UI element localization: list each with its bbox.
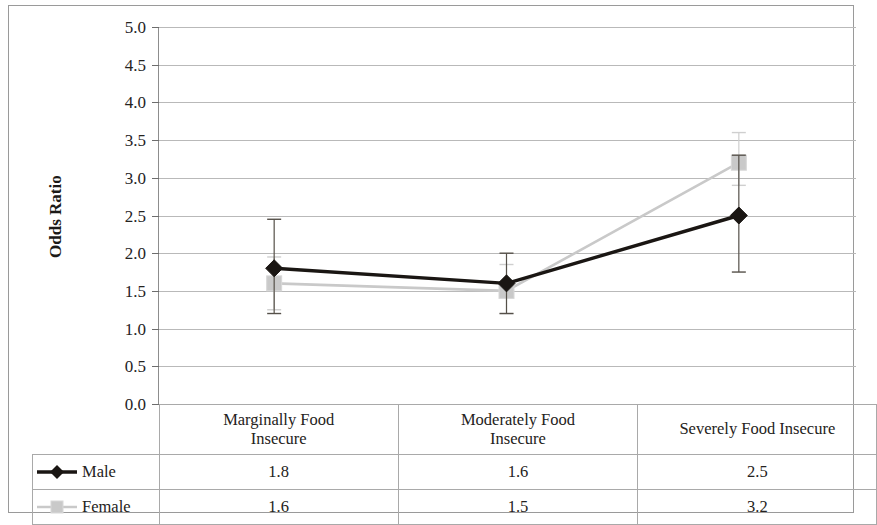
table-row: Female1.61.53.2 xyxy=(33,490,877,525)
legend-entry: Female xyxy=(35,497,155,517)
column-header-line2: Insecure xyxy=(163,430,395,448)
legend-entry: Male xyxy=(35,462,155,482)
column-header-line2: Insecure xyxy=(402,430,634,448)
table-cell-value: 2.5 xyxy=(638,455,877,490)
table-cell-value: 1.8 xyxy=(159,455,398,490)
table-row: Male1.81.62.5 xyxy=(33,455,877,490)
column-header-line1: Marginally Food xyxy=(163,411,395,429)
table-column-header: Moderately FoodInsecure xyxy=(398,405,637,455)
table-header-row: Marginally FoodInsecureModerately FoodIn… xyxy=(33,405,877,455)
table-column-header: Severely Food Insecure xyxy=(638,405,877,455)
data-table: Marginally FoodInsecureModerately FoodIn… xyxy=(32,404,877,525)
legend-marker-square xyxy=(51,501,63,513)
data-point-marker-diamond xyxy=(266,260,283,277)
legend-marker-diamond xyxy=(50,465,64,479)
table-column-header: Marginally FoodInsecure xyxy=(159,405,398,455)
table-cell-value: 1.5 xyxy=(398,490,637,525)
table-corner-cell xyxy=(33,405,160,455)
column-header-line1: Moderately Food xyxy=(402,411,634,429)
legend-key-wrap xyxy=(35,497,79,517)
column-header-line1: Severely Food Insecure xyxy=(641,420,873,438)
legend-label: Male xyxy=(80,463,116,481)
data-point-marker-diamond xyxy=(730,207,747,224)
legend-row-male: Male xyxy=(33,455,160,490)
series-male xyxy=(266,155,748,313)
table-cell-value: 1.6 xyxy=(398,455,637,490)
table-cell-value: 3.2 xyxy=(638,490,877,525)
legend-row-female: Female xyxy=(33,490,160,525)
legend-label: Female xyxy=(80,498,131,516)
table-cell-value: 1.6 xyxy=(159,490,398,525)
legend-key-icon xyxy=(35,462,79,482)
legend-key-wrap xyxy=(35,462,79,482)
legend-key-icon xyxy=(35,497,79,517)
